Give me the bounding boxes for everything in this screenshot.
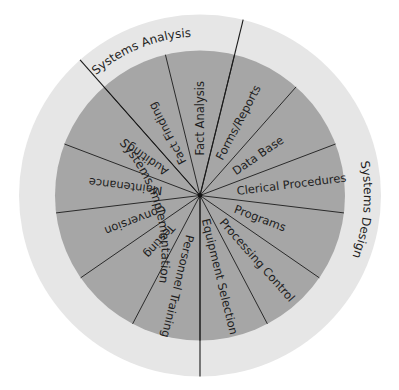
activity-label-fact-analysis: Fact Analysis [193, 81, 207, 155]
center-hub [198, 193, 202, 197]
sdlc-wheel-diagram: Systems AnalysisSystems DesignSystems Im… [0, 0, 399, 390]
